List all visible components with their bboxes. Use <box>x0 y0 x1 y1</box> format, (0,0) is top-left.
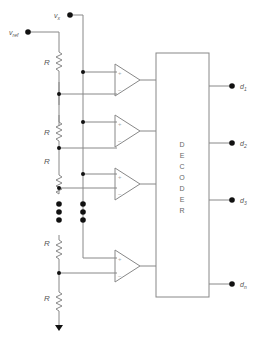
resistor-label: R <box>44 58 50 67</box>
svg-text:D: D <box>179 141 184 148</box>
svg-text:−: − <box>118 273 122 279</box>
vx-label: vx <box>54 12 61 21</box>
svg-text:D: D <box>179 185 184 192</box>
resistor-2 <box>56 105 62 162</box>
decoder-label: D E C O D E R <box>179 141 185 214</box>
svg-text:+: + <box>118 70 122 76</box>
svg-text:R: R <box>179 207 184 214</box>
svg-text:O: O <box>179 174 185 181</box>
resistor-label: R <box>44 157 50 166</box>
output-label-dn: dn <box>240 281 247 290</box>
output-label-d3: d3 <box>240 197 247 206</box>
svg-text:−: − <box>118 138 122 144</box>
ground-arrow-icon <box>55 325 63 331</box>
ellipsis-dot <box>56 201 62 207</box>
resistor-label: R <box>44 294 50 303</box>
vref-terminal <box>25 29 31 35</box>
output-label-d2: d2 <box>240 140 247 149</box>
flash-adc-diagram: vref vx R R R R R + − + − + − + − D E C … <box>0 0 265 345</box>
svg-text:+: + <box>118 256 122 262</box>
resistor-4 <box>56 235 62 273</box>
vref-wire <box>28 32 59 52</box>
circuit-svg: vref vx R R R R R + − + − + − + − D E C … <box>0 0 265 345</box>
vref-label: vref <box>9 29 19 38</box>
svg-text:+: + <box>118 174 122 180</box>
svg-text:C: C <box>179 163 184 170</box>
vx-terminal <box>67 12 73 18</box>
svg-text:+: + <box>118 121 122 127</box>
resistor-label: R <box>44 239 50 248</box>
resistor-5 <box>56 273 62 325</box>
svg-text:E: E <box>180 196 185 203</box>
svg-text:−: − <box>118 87 122 93</box>
output-terminal <box>229 83 235 89</box>
svg-text:−: − <box>118 191 122 197</box>
svg-text:E: E <box>180 152 185 159</box>
output-label-d1: d1 <box>240 83 247 92</box>
vx-wire <box>70 15 117 258</box>
resistor-label: R <box>44 128 50 137</box>
